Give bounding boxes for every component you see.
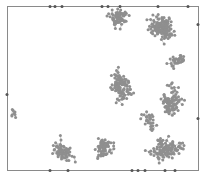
particle: [176, 91, 179, 94]
particle: [119, 28, 122, 31]
particle: [57, 154, 60, 157]
particle: [106, 152, 109, 155]
particle: [176, 148, 179, 151]
particle: [170, 91, 173, 94]
particle: [183, 144, 186, 147]
particle: [59, 134, 62, 137]
boundary-particle: [157, 5, 160, 8]
particle: [144, 122, 147, 125]
particle: [182, 147, 185, 150]
particle: [153, 154, 156, 157]
particle: [149, 18, 152, 21]
particle: [166, 151, 169, 154]
particle: [63, 146, 66, 149]
particle: [169, 102, 172, 105]
particle: [169, 58, 172, 61]
particle: [164, 142, 167, 145]
particle: [174, 103, 177, 106]
particle: [180, 98, 183, 101]
particle: [164, 36, 167, 39]
particle: [109, 148, 112, 151]
particle: [121, 103, 124, 106]
particle: [177, 86, 180, 89]
particle: [151, 124, 154, 127]
particle: [120, 17, 123, 20]
particle: [55, 145, 58, 148]
particle: [64, 156, 67, 159]
particle: [160, 29, 163, 32]
boundary-particle: [174, 169, 177, 172]
particle: [173, 30, 176, 33]
particle: [115, 11, 118, 14]
particle: [150, 113, 153, 116]
particle: [60, 139, 63, 142]
particle: [102, 146, 105, 149]
particle: [114, 27, 117, 30]
particle: [14, 113, 17, 116]
particle: [177, 109, 180, 112]
particle: [145, 118, 148, 121]
particle: [68, 151, 71, 154]
particle: [122, 89, 125, 92]
particle: [112, 147, 115, 150]
particle: [145, 110, 148, 113]
boundary-particle: [144, 169, 147, 172]
particle: [114, 82, 117, 85]
particle: [117, 17, 120, 20]
particle: [59, 150, 62, 153]
particle: [175, 62, 178, 65]
particle: [181, 103, 184, 106]
particle: [126, 87, 129, 90]
particle: [147, 28, 150, 31]
particle: [168, 18, 171, 21]
particle: [174, 107, 177, 110]
boundary-particle: [164, 169, 167, 172]
particle: [161, 154, 164, 157]
particle: [160, 150, 163, 153]
boundary-particle: [49, 5, 52, 8]
particle: [119, 95, 122, 98]
particle: [161, 32, 164, 35]
particle: [152, 118, 155, 121]
boundary-particle: [197, 23, 200, 26]
particle: [149, 27, 152, 30]
particle: [171, 81, 174, 84]
particle: [115, 101, 118, 104]
boundary-particle: [101, 5, 104, 8]
boundary-particle: [54, 5, 57, 8]
particle: [116, 8, 119, 11]
particle: [172, 99, 175, 102]
particle: [171, 64, 174, 67]
particle: [122, 92, 125, 95]
particle: [117, 66, 120, 69]
particle: [177, 100, 180, 103]
particle: [123, 19, 126, 22]
particle: [153, 21, 156, 24]
particle: [156, 18, 159, 21]
particle: [14, 116, 17, 119]
particle: [122, 97, 125, 100]
particle: [156, 21, 159, 24]
particle: [73, 156, 76, 159]
particle: [173, 148, 176, 151]
particle: [147, 121, 150, 124]
particle: [165, 62, 168, 65]
particle: [123, 78, 126, 81]
particle: [110, 74, 113, 77]
particle: [152, 147, 155, 150]
particle: [69, 147, 72, 150]
boundary-particle: [131, 169, 134, 172]
particle: [168, 36, 171, 39]
particle: [54, 141, 57, 144]
particle: [150, 31, 153, 34]
particle: [122, 75, 125, 78]
particle: [170, 146, 173, 149]
particle: [161, 19, 164, 22]
particle: [123, 83, 126, 86]
particle: [179, 54, 182, 57]
particle: [111, 83, 114, 86]
particle: [115, 89, 118, 92]
particle: [12, 109, 15, 112]
particle: [166, 84, 169, 87]
particle: [97, 153, 100, 156]
